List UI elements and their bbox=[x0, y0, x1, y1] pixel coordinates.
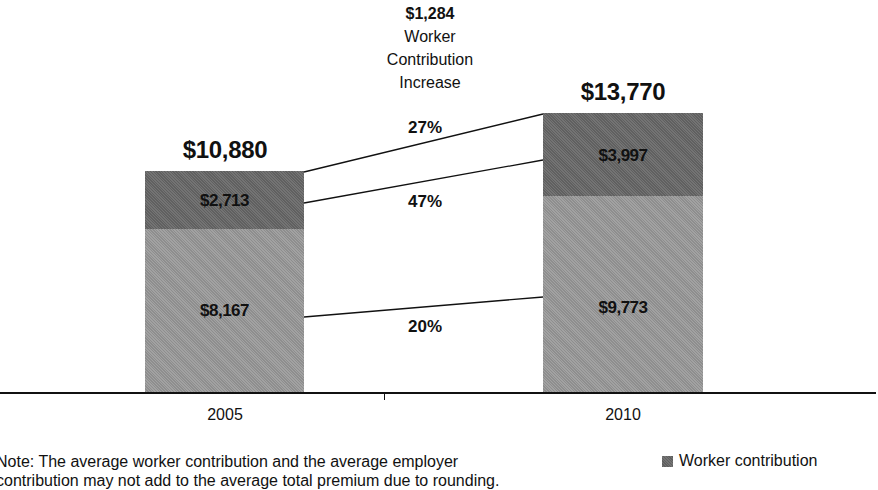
legend-label-worker: Worker contribution bbox=[679, 452, 817, 470]
pct-worker-change: 47% bbox=[385, 192, 465, 212]
footnote-line-1: Note: The average worker contribution an… bbox=[0, 452, 556, 471]
x-axis bbox=[0, 392, 876, 394]
x-label-2010: 2010 bbox=[573, 406, 673, 424]
footnote: Note: The average worker contribution an… bbox=[0, 452, 556, 490]
pct-employer-change: 20% bbox=[385, 317, 465, 337]
x-label-2005: 2005 bbox=[175, 406, 275, 424]
x-axis-tick bbox=[384, 394, 385, 400]
legend: Worker contribution bbox=[662, 452, 817, 470]
footnote-line-2: contribution may not add to the average … bbox=[0, 471, 556, 490]
pct-total-change: 27% bbox=[385, 118, 465, 138]
employer-connector bbox=[304, 297, 543, 317]
legend-swatch-worker bbox=[662, 456, 673, 467]
